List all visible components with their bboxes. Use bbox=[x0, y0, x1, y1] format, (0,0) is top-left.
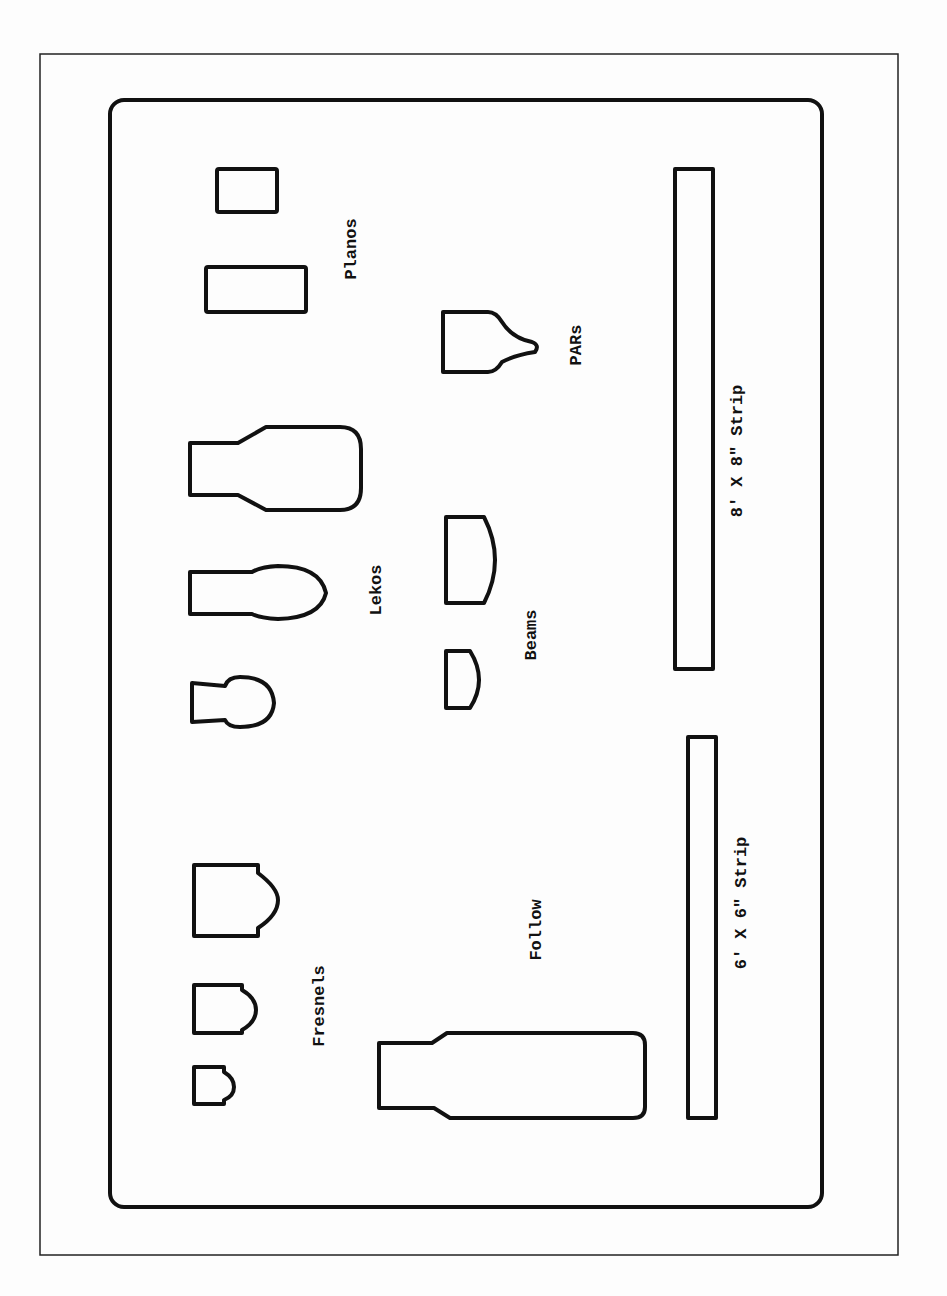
beam-large-icon bbox=[446, 517, 495, 603]
beam-small-icon bbox=[446, 651, 479, 708]
leko-medium-icon bbox=[190, 566, 326, 619]
label-pars: PARs bbox=[567, 325, 586, 366]
fresnel-medium-icon bbox=[194, 985, 256, 1033]
leko-small-icon bbox=[192, 677, 274, 727]
label-fresnels: Fresnels bbox=[310, 965, 329, 1047]
label-lekos: Lekos bbox=[367, 564, 386, 615]
label-follow: Follow bbox=[527, 899, 546, 960]
label-strip-6ft: 6' X 6" Strip bbox=[732, 837, 751, 970]
fresnel-large-icon bbox=[194, 865, 278, 936]
strip-6ft-icon bbox=[688, 737, 716, 1118]
label-beams: Beams bbox=[522, 609, 541, 660]
plano-large-icon bbox=[206, 267, 306, 312]
fresnel-small-icon bbox=[194, 1067, 234, 1104]
template-diagram bbox=[0, 0, 947, 1296]
par-icon bbox=[443, 312, 537, 372]
label-planos: Planos bbox=[342, 218, 361, 279]
label-strip-8ft: 8' X 8" Strip bbox=[728, 385, 747, 518]
plano-small-icon bbox=[217, 169, 277, 212]
follow-spot-icon bbox=[379, 1033, 645, 1118]
leko-large-icon bbox=[190, 427, 361, 510]
outer-frame bbox=[40, 54, 898, 1255]
strip-8ft-icon bbox=[675, 169, 713, 669]
